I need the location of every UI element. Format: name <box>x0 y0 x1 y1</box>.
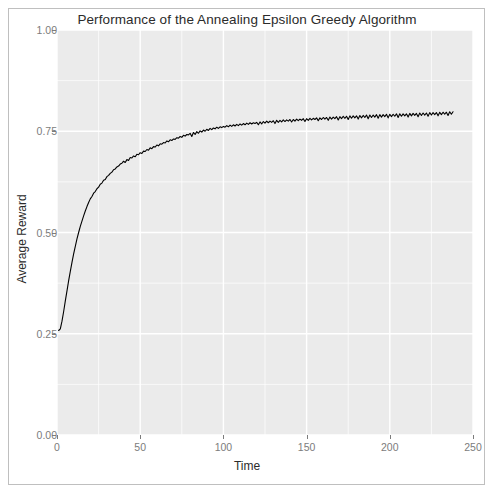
y-tick-mark <box>52 233 56 234</box>
x-tick-mark <box>390 435 391 439</box>
y-tick-mark <box>52 30 56 31</box>
x-tick-label: 100 <box>198 441 248 453</box>
x-tick-label: 150 <box>282 441 332 453</box>
x-tick-label: 250 <box>448 441 494 453</box>
x-tick-label: 50 <box>115 441 165 453</box>
x-tick-mark <box>223 435 224 439</box>
x-tick-label: 200 <box>365 441 415 453</box>
x-tick-mark <box>307 435 308 439</box>
x-axis: 050100150200250 Time <box>0 435 494 498</box>
x-tick-mark <box>473 435 474 439</box>
y-tick-label: 1.00 <box>17 24 57 36</box>
chart-figure: Performance of the Annealing Epsilon Gre… <box>0 0 494 498</box>
plot-panel <box>57 30 473 435</box>
y-axis: 0.000.250.500.751.00 Average Reward <box>0 0 57 498</box>
x-tick-label: 0 <box>32 441 82 453</box>
series-line-average-reward <box>59 112 453 331</box>
y-tick-mark <box>52 131 56 132</box>
x-tick-mark <box>57 435 58 439</box>
x-tick-mark <box>140 435 141 439</box>
x-axis-title: Time <box>0 459 494 473</box>
y-tick-mark <box>52 334 56 335</box>
page-title: Performance of the Annealing Epsilon Gre… <box>0 12 494 27</box>
y-tick-label: 0.75 <box>17 125 57 137</box>
y-axis-title: Average Reward <box>15 139 29 339</box>
plot-area-svg <box>57 30 473 435</box>
